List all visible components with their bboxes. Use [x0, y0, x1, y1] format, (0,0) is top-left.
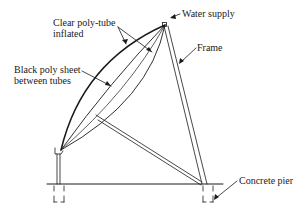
label-line: between tubes [14, 75, 81, 86]
left-post [55, 148, 63, 184]
clear-tube-outer [61, 25, 165, 150]
right-concrete-pier [203, 186, 213, 202]
diagram-canvas: Clear poly-tube inflated Black poly shee… [0, 0, 305, 218]
diagonal-strut [96, 115, 202, 185]
black-sheet-line [61, 25, 165, 150]
label-frame: Frame [197, 42, 223, 53]
label-clear-poly-tube: Clear poly-tube inflated [53, 17, 115, 39]
left-concrete-pier [54, 186, 64, 202]
label-black-poly-sheet: Black poly sheet between tubes [14, 64, 81, 86]
poly-tube-collector [61, 23, 167, 151]
label-line: Black poly sheet [14, 64, 81, 75]
label-water-supply: Water supply [182, 8, 235, 19]
label-line: inflated [53, 28, 115, 39]
tube-mid-line [61, 25, 165, 150]
clear-tube-inner [61, 25, 165, 150]
label-line: Clear poly-tube [53, 17, 115, 28]
label-concrete-pier: Concrete pier [239, 175, 293, 186]
